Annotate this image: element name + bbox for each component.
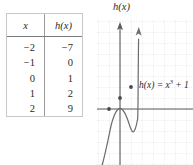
graph-svg xyxy=(97,19,193,165)
data-point xyxy=(118,96,122,100)
cell-x: −1 xyxy=(7,55,45,70)
cell-hx: 1 xyxy=(45,70,83,85)
y-axis-label: h(x) xyxy=(113,1,130,12)
grid xyxy=(97,19,193,165)
cell-x: 1 xyxy=(7,86,45,101)
table-row: −2 −7 xyxy=(7,37,82,56)
cell-x: 2 xyxy=(7,101,45,116)
column-header-x: x xyxy=(7,14,45,37)
data-point xyxy=(129,85,133,89)
table-header: x h(x) xyxy=(7,14,82,37)
cell-x: −2 xyxy=(7,37,45,56)
cell-hx: 2 xyxy=(45,86,83,101)
table-header-row: x h(x) xyxy=(7,14,82,37)
value-table: x h(x) −2 −7 −1 0 0 1 1 xyxy=(6,13,83,117)
curve-label-prefix: h(x) = x xyxy=(139,80,170,90)
math-figure: x h(x) −2 −7 −1 0 0 1 1 xyxy=(0,0,193,165)
curve-equation-label: h(x) = x3 + 1 xyxy=(139,78,189,90)
table-row: 2 9 xyxy=(7,101,82,116)
cell-hx: 9 xyxy=(45,101,83,116)
curve-label-exponent: 3 xyxy=(170,78,173,85)
column-header-hx: h(x) xyxy=(45,14,83,37)
table-row: 0 1 xyxy=(7,70,82,85)
cell-hx: −7 xyxy=(45,37,83,56)
table: x h(x) −2 −7 −1 0 0 1 1 xyxy=(7,14,82,116)
cell-x: 0 xyxy=(7,70,45,85)
table-body: −2 −7 −1 0 0 1 1 2 2 9 xyxy=(7,37,82,117)
data-point xyxy=(107,107,111,111)
table-row: −1 0 xyxy=(7,55,82,70)
table-row: 1 2 xyxy=(7,86,82,101)
cell-hx: 0 xyxy=(45,55,83,70)
graph-plot xyxy=(97,19,193,165)
curve-label-suffix: + 1 xyxy=(175,80,189,90)
